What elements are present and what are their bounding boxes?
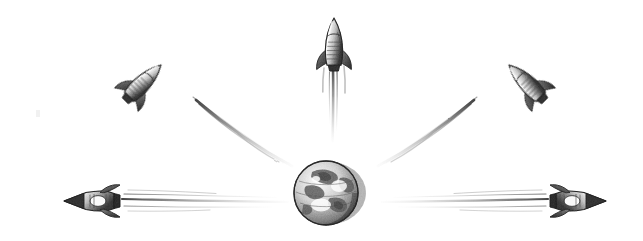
rockets-earth-drawing xyxy=(0,0,643,241)
scan-speck xyxy=(36,110,40,117)
illustration-canvas: Rockets launching outward from planet Ea… xyxy=(0,0,643,241)
